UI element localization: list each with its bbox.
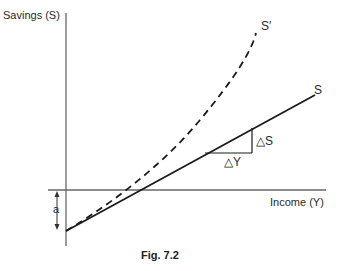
x-axis-label: Income (Y) xyxy=(270,197,324,208)
delta-y-label: △Y xyxy=(224,156,241,168)
delta-s-label: △S xyxy=(256,135,273,147)
s-prime-curve xyxy=(66,33,256,231)
s-line xyxy=(66,95,315,231)
savings-income-diagram: Savings (S) Income (Y) S S′ △S △Y a Fig.… xyxy=(0,0,343,271)
figure-caption: Fig. 7.2 xyxy=(141,250,179,261)
y-axis-label: Savings (S) xyxy=(3,10,60,21)
arrow-down-icon xyxy=(55,224,60,230)
s-curve-label: S xyxy=(314,84,322,96)
intercept-label: a xyxy=(53,204,59,215)
diagram-canvas xyxy=(0,0,343,271)
s-prime-curve-label: S′ xyxy=(261,20,271,32)
arrow-up-icon xyxy=(55,191,60,197)
